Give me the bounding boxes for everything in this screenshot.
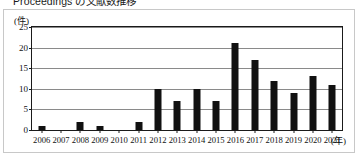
x-tick-label: 2017: [246, 135, 263, 145]
bar-group: 2012: [148, 27, 167, 130]
bar-group: 2021: [323, 27, 342, 130]
x-tick-mark: [138, 130, 139, 133]
bar: [174, 101, 181, 130]
x-tick-label: 2011: [130, 135, 147, 145]
bar-group: 2013: [168, 27, 187, 130]
bar: [77, 122, 84, 130]
bar-group: 2017: [245, 27, 264, 130]
y-tick-label: 20: [19, 43, 28, 53]
y-tick-label: 5: [24, 104, 29, 114]
x-tick-mark: [177, 130, 178, 133]
x-tick-label: 2009: [91, 135, 108, 145]
x-tick-mark: [254, 130, 255, 133]
bar: [271, 81, 278, 130]
x-tick-label: 2014: [188, 135, 205, 145]
bar-group: 2014: [187, 27, 206, 130]
bars-layer: 2006200720082009201020112012201320142015…: [32, 27, 342, 130]
y-tick-label: 25: [19, 22, 28, 32]
bar: [193, 89, 200, 130]
bar: [213, 101, 220, 130]
x-tick-mark: [196, 130, 197, 133]
bar-group: 2009: [90, 27, 109, 130]
x-tick-label: 2006: [33, 135, 50, 145]
bar-group: 2018: [265, 27, 284, 130]
bar-group: 2015: [206, 27, 225, 130]
x-tick-label: 2008: [72, 135, 89, 145]
x-tick-mark: [41, 130, 42, 133]
x-tick-label: 2018: [266, 135, 283, 145]
bar-group: 2016: [226, 27, 245, 130]
x-tick-mark: [80, 130, 81, 133]
bar-group: 2007: [51, 27, 70, 130]
x-tick-label: 2021: [324, 135, 341, 145]
x-tick-mark: [119, 130, 120, 133]
bar-group: 2006: [32, 27, 51, 130]
bar-group: 2011: [129, 27, 148, 130]
bar-group: 2008: [71, 27, 90, 130]
x-tick-label: 2010: [111, 135, 128, 145]
x-tick-mark: [99, 130, 100, 133]
bar-group: 2020: [303, 27, 322, 130]
bar: [309, 76, 316, 130]
x-tick-mark: [293, 130, 294, 133]
x-tick-label: 2013: [169, 135, 186, 145]
x-tick-label: 2012: [149, 135, 166, 145]
bar: [329, 85, 336, 130]
bar: [154, 89, 161, 130]
bar: [251, 60, 258, 130]
x-tick-mark: [312, 130, 313, 133]
x-tick-mark: [235, 130, 236, 133]
plot-area: 0510152025 20062007200820092010201120122…: [31, 26, 343, 131]
bar-group: 2019: [284, 27, 303, 130]
figure-title: Proceedings の文献数推移: [13, 0, 136, 8]
x-tick-mark: [216, 130, 217, 133]
x-tick-mark: [274, 130, 275, 133]
x-tick-mark: [157, 130, 158, 133]
y-tick-label: 0: [24, 125, 29, 135]
y-tick-label: 10: [19, 84, 28, 94]
bar: [232, 43, 239, 130]
bar: [290, 93, 297, 130]
y-tick-label: 15: [19, 63, 28, 73]
x-tick-mark: [332, 130, 333, 133]
y-tick-mark: [29, 130, 32, 131]
x-tick-label: 2019: [285, 135, 302, 145]
x-tick-label: 2020: [304, 135, 321, 145]
bar-group: 2010: [110, 27, 129, 130]
x-tick-label: 2015: [207, 135, 224, 145]
x-tick-label: 2007: [52, 135, 69, 145]
bar: [135, 122, 142, 130]
x-tick-mark: [61, 130, 62, 133]
x-tick-label: 2016: [227, 135, 244, 145]
